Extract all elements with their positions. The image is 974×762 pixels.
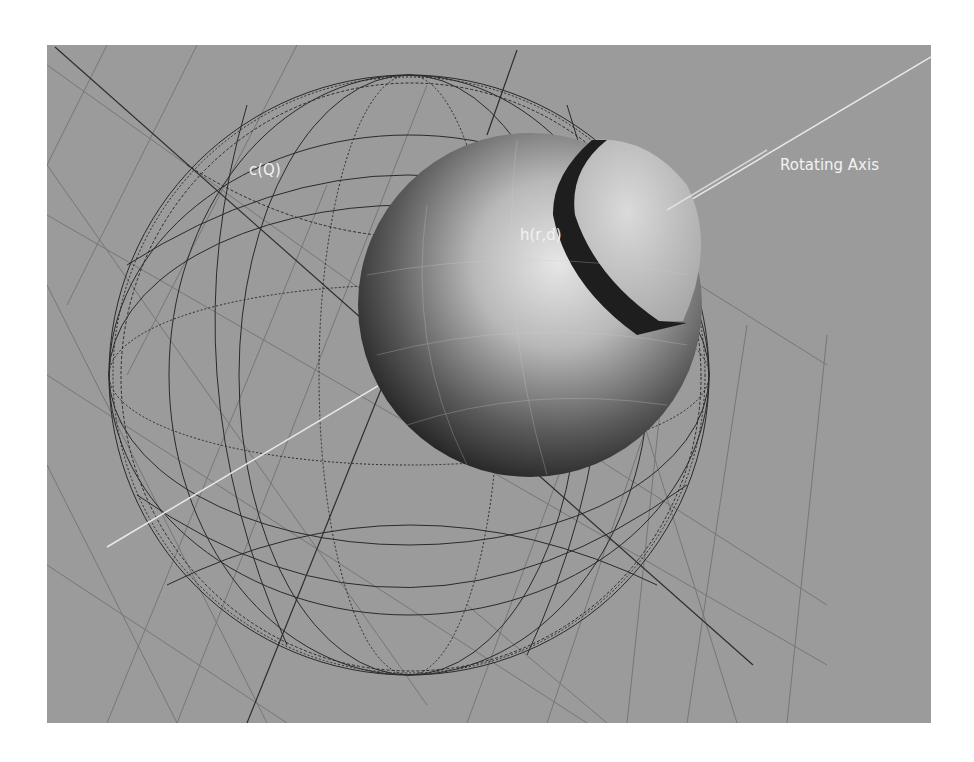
rendered-scene: c(Q) h(r,d) Rotating Axis (47, 45, 931, 723)
outer-sphere-label: c(Q) (249, 163, 281, 178)
rotating-axis-label: Rotating Axis (780, 158, 879, 173)
shaded-sphere (358, 133, 702, 477)
inner-sphere-label: h(r,d) (520, 228, 562, 243)
scene-canvas (47, 45, 931, 723)
